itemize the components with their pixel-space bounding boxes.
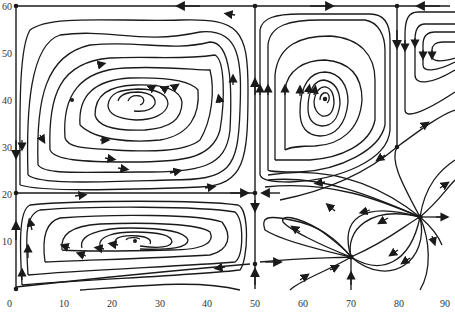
- fixed-point-0-20: [14, 191, 19, 196]
- fixed-point-0-60: [14, 4, 19, 9]
- flow-lower-right: [260, 110, 455, 290]
- y-tick-10: 10: [2, 236, 12, 247]
- x-tick-70: 70: [346, 298, 356, 309]
- y-tick-30: 30: [2, 142, 12, 153]
- y-tick-50: 50: [2, 48, 12, 59]
- fixed-point-80-60: [395, 4, 400, 9]
- x-tick-20: 20: [107, 298, 117, 309]
- fixed-point-50-20: [253, 191, 258, 196]
- x-tick-30: 30: [155, 298, 165, 309]
- x-tick-50: 50: [250, 298, 260, 309]
- x-tick-0: 0: [7, 298, 12, 309]
- phase-portrait-svg: 60 50 40 30 20 10 0 10 20 30 40 50 60 70…: [0, 0, 455, 317]
- y-tick-40: 40: [2, 95, 12, 106]
- y-axis-ticks: 60 50 40 30 20 10: [2, 1, 12, 247]
- x-tick-90: 90: [440, 298, 450, 309]
- y-tick-60: 60: [2, 1, 12, 12]
- x-tick-10: 10: [59, 298, 69, 309]
- phase-portrait-figure: 60 50 40 30 20 10 0 10 20 30 40 50 60 70…: [0, 0, 455, 317]
- fixed-point-85-15: [418, 215, 423, 220]
- x-axis-ticks: 0 10 20 30 40 50 60 70 80 90: [7, 298, 450, 309]
- fixed-point-50-60: [253, 4, 258, 9]
- orbits-lower-left: [16, 195, 250, 290]
- x-tick-40: 40: [202, 298, 212, 309]
- x-tick-80: 80: [394, 298, 404, 309]
- fixed-point-80-31: [395, 145, 400, 150]
- orbits-upper-middle: [260, 14, 390, 182]
- fixed-point-0-0: [14, 287, 19, 292]
- y-tick-20: 20: [2, 189, 12, 200]
- fixed-point-70-7: [349, 255, 354, 260]
- orbits-upper-left: [20, 14, 248, 190]
- fixed-point-50-5: [253, 262, 258, 267]
- orbits-upper-right: [405, 12, 455, 114]
- x-tick-60: 60: [298, 298, 308, 309]
